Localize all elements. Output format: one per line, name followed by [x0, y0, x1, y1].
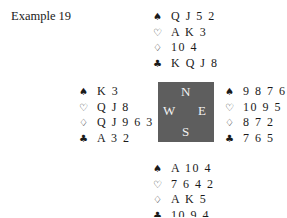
- north-diamonds-row: ♢10 4: [153, 40, 219, 56]
- east-hearts-row: ♡10 9 5: [225, 100, 287, 116]
- east-spades: 9 8 7 6: [243, 84, 287, 100]
- compass-table: N W E S: [158, 82, 214, 142]
- east-clubs: 7 6 5: [243, 131, 275, 147]
- diamond-icon: ♢: [225, 115, 243, 131]
- north-spades-row: ♠Q J 5 2: [153, 9, 219, 25]
- compass-west: W: [163, 104, 175, 118]
- west-spades: K 3: [97, 84, 119, 100]
- south-hearts-row: ♡7 6 4 2: [153, 177, 215, 193]
- west-hand: ♠K 3 ♡Q J 8 ♢Q J 9 6 3 ♣A 3 2: [79, 84, 154, 146]
- club-icon: ♣: [153, 56, 171, 72]
- west-hearts: Q J 8: [97, 100, 130, 116]
- diamond-icon: ♢: [79, 115, 97, 131]
- spade-icon: ♠: [153, 161, 171, 177]
- spade-icon: ♠: [153, 9, 171, 25]
- club-icon: ♣: [79, 131, 97, 147]
- east-diamonds-row: ♢8 7 2: [225, 115, 287, 131]
- west-diamonds-row: ♢Q J 9 6 3: [79, 115, 154, 131]
- south-spades-row: ♠A 10 4: [153, 161, 215, 177]
- example-title: Example 19: [11, 9, 71, 23]
- compass-north: N: [181, 85, 190, 99]
- diamond-icon: ♢: [153, 40, 171, 56]
- south-diamonds: A K 5: [171, 192, 207, 208]
- heart-icon: ♡: [79, 100, 97, 116]
- north-spades: Q J 5 2: [171, 9, 216, 25]
- spade-icon: ♠: [79, 84, 97, 100]
- south-hand: ♠A 10 4 ♡7 6 4 2 ♢A K 5 ♣10 9 4: [153, 161, 215, 217]
- south-clubs: 10 9 4: [171, 208, 210, 218]
- south-spades: A 10 4: [171, 161, 212, 177]
- north-hearts: A K 3: [171, 25, 207, 41]
- compass-east: E: [198, 104, 206, 118]
- heart-icon: ♡: [225, 100, 243, 116]
- east-diamonds: 8 7 2: [243, 115, 275, 131]
- north-hand: ♠Q J 5 2 ♡A K 3 ♢10 4 ♣K Q J 8: [153, 9, 219, 71]
- west-hearts-row: ♡Q J 8: [79, 100, 154, 116]
- south-clubs-row: ♣10 9 4: [153, 208, 215, 218]
- west-clubs: A 3 2: [97, 131, 131, 147]
- west-diamonds: Q J 9 6 3: [97, 115, 154, 131]
- east-hand: ♠9 8 7 6 ♡10 9 5 ♢8 7 2 ♣7 6 5: [225, 84, 287, 146]
- west-spades-row: ♠K 3: [79, 84, 154, 100]
- north-hearts-row: ♡A K 3: [153, 25, 219, 41]
- north-clubs: K Q J 8: [171, 56, 219, 72]
- north-clubs-row: ♣K Q J 8: [153, 56, 219, 72]
- spade-icon: ♠: [225, 84, 243, 100]
- west-clubs-row: ♣A 3 2: [79, 131, 154, 147]
- south-diamonds-row: ♢A K 5: [153, 192, 215, 208]
- heart-icon: ♡: [153, 25, 171, 41]
- east-clubs-row: ♣7 6 5: [225, 131, 287, 147]
- east-spades-row: ♠9 8 7 6: [225, 84, 287, 100]
- heart-icon: ♡: [153, 177, 171, 193]
- club-icon: ♣: [225, 131, 243, 147]
- north-diamonds: 10 4: [171, 40, 198, 56]
- compass-south: S: [182, 125, 189, 139]
- diamond-icon: ♢: [153, 192, 171, 208]
- south-hearts: 7 6 4 2: [171, 177, 215, 193]
- club-icon: ♣: [153, 208, 171, 218]
- east-hearts: 10 9 5: [243, 100, 282, 116]
